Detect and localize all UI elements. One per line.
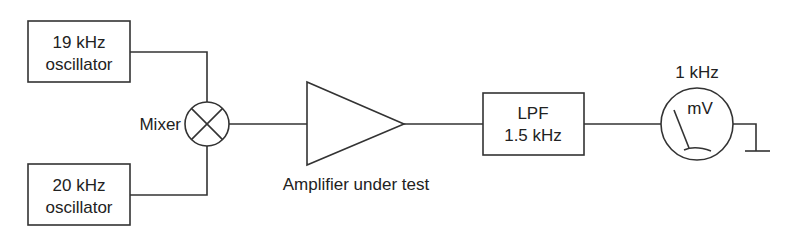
mixer-icon: [185, 102, 229, 146]
lpf-box: [483, 93, 584, 155]
osc1-freq-label: 19 kHz: [53, 33, 106, 52]
osc2-type-label: oscillator: [45, 198, 112, 217]
lpf-title-label: LPF: [517, 104, 548, 123]
meter-freq-label: 1 kHz: [675, 63, 718, 82]
wire-osc2-mixer: [130, 146, 207, 195]
wire-osc1-mixer: [130, 52, 207, 102]
osc2-freq-label: 20 kHz: [53, 176, 106, 195]
amplifier-icon: [307, 82, 404, 165]
mixer-label: Mixer: [139, 115, 181, 134]
amplifier-label: Amplifier under test: [283, 175, 430, 194]
lpf-cutoff-label: 1.5 kHz: [504, 126, 562, 145]
meter-unit-label: mV: [687, 99, 713, 118]
test-setup-diagram: 19 kHz oscillator 20 kHz oscillator Mixe…: [0, 0, 794, 238]
osc1-type-label: oscillator: [45, 55, 112, 74]
ground-icon: [733, 124, 770, 151]
